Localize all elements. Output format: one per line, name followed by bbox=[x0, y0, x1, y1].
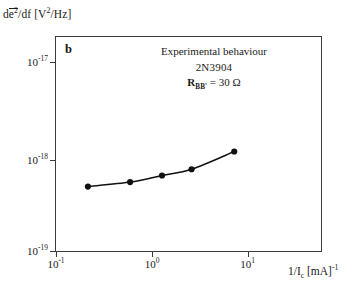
x-tick-label-1e-1: 10-1 bbox=[47, 258, 64, 270]
x-tick-mark-1e1 bbox=[248, 251, 249, 257]
x-tick-label-1e0-exponent: 0 bbox=[156, 256, 160, 265]
y-tick-label-1e-18: 10-18 bbox=[27, 154, 48, 166]
x-tick-mark-1e-1 bbox=[56, 251, 57, 257]
x-tick-label-1e-1-mantissa: 10 bbox=[47, 258, 58, 270]
data-point-marker-4 bbox=[231, 148, 237, 154]
y-axis-label: de2/df [V2/Hz] bbox=[3, 8, 71, 21]
data-point-markers bbox=[85, 148, 237, 189]
x-tick-label-1e1-exponent: 1 bbox=[251, 256, 255, 265]
x-tick-label-1e-1-exponent: -1 bbox=[58, 256, 64, 265]
y-axis-label-suffix: /Hz] bbox=[51, 8, 72, 20]
data-point-marker-1 bbox=[127, 179, 133, 185]
y-tick-label-1e-18-exponent: -18 bbox=[38, 152, 48, 161]
y-tick-label-1e-17-exponent: -17 bbox=[38, 54, 48, 63]
data-curve-svg bbox=[56, 37, 321, 251]
y-tick-label-1e-19-exponent: -19 bbox=[38, 243, 48, 252]
data-point-marker-0 bbox=[85, 184, 91, 190]
x-tick-label-1e1: 101 bbox=[240, 258, 255, 270]
data-point-marker-2 bbox=[159, 172, 165, 178]
data-curve-line bbox=[88, 152, 234, 187]
y-tick-label-1e-17-mantissa: 10 bbox=[27, 56, 38, 68]
x-axis-label: 1/Ic [mA]-1 bbox=[288, 265, 338, 277]
data-point-marker-3 bbox=[188, 166, 194, 172]
y-axis-label-overline-group: e2 bbox=[9, 8, 18, 21]
figure-panel-b: de2/df [V2/Hz] b Experimental behaviour … bbox=[0, 0, 362, 299]
y-axis-label-middle: /df [V bbox=[18, 8, 46, 20]
x-axis-label-exponent: -1 bbox=[332, 263, 339, 272]
x-tick-mark-1e0 bbox=[152, 251, 153, 257]
x-tick-label-1e0: 100 bbox=[145, 258, 160, 270]
y-tick-label-1e-19-mantissa: 10 bbox=[27, 245, 38, 257]
x-axis-label-prefix: 1/I bbox=[288, 265, 301, 277]
y-tick-label-1e-18-mantissa: 10 bbox=[27, 154, 38, 166]
x-axis-label-middle: [mA] bbox=[304, 265, 332, 277]
plot-area: b Experimental behaviour 2N3904 RBB' = 3… bbox=[55, 36, 322, 252]
x-tick-label-1e1-mantissa: 10 bbox=[240, 258, 251, 270]
y-tick-label-1e-19: 10-19 bbox=[27, 245, 48, 257]
y-tick-label-1e-17: 10-17 bbox=[27, 56, 48, 68]
x-tick-label-1e0-mantissa: 10 bbox=[145, 258, 156, 270]
